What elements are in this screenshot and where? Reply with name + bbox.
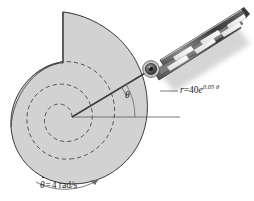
cam-silhouette (11, 12, 148, 184)
spiral-cam-figure: r=40e0.05 θ θ θ = 4 rad/s (0, 0, 254, 201)
roller-pin (143, 61, 160, 78)
diagram-canvas (0, 0, 254, 201)
